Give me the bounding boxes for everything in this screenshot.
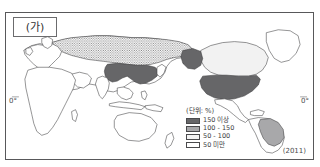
- legend-label-50-to-100: 50 - 100: [203, 133, 230, 140]
- legend-swatch-medium-gray: [186, 126, 200, 132]
- figure-frame: (가) 0° 0° (단위: %) 150 이상 100 - 150 50 - …: [5, 12, 314, 160]
- legend-item-50-to-100: 50 - 100: [186, 133, 234, 140]
- legend-swatch-light-gray: [186, 134, 200, 140]
- legend-label-100-to-150: 100 - 150: [203, 125, 234, 132]
- figure-stage: — — — —: [0, 0, 320, 167]
- legend-item-100-to-150: 100 - 150: [186, 125, 234, 132]
- map-legend: (단위: %) 150 이상 100 - 150 50 - 100 50 미만: [186, 108, 234, 150]
- region-greenland: [266, 30, 300, 63]
- panel-label-text: (가): [26, 22, 45, 33]
- cropped-header-text: — — — —: [0, 0, 320, 9]
- region-caribbean: [250, 110, 264, 116]
- legend-swatch-dark-gray: [186, 118, 200, 124]
- equator-label-right: 0°: [301, 98, 309, 105]
- cropped-header-glyphs: — — — —: [14, 0, 97, 4]
- region-united-states: [200, 75, 261, 100]
- legend-label-under-50: 50 미만: [203, 142, 225, 149]
- region-japan: [157, 64, 166, 77]
- region-madagascar: [72, 110, 78, 122]
- panel-label-box: (가): [13, 17, 57, 37]
- region-southeast-asia: [117, 87, 133, 100]
- source-year-note: (2011): [283, 148, 306, 155]
- legend-item-under-50: 50 미만: [186, 142, 234, 149]
- region-india: [95, 76, 109, 99]
- equator-label-left: 0°: [9, 98, 17, 105]
- legend-swatch-dotted: [186, 142, 200, 148]
- legend-title: (단위: %): [186, 108, 234, 115]
- region-new-zealand: [165, 132, 174, 148]
- region-philippines: [141, 91, 147, 100]
- legend-item-150-and-above: 150 이상: [186, 117, 234, 124]
- region-indonesia: [109, 102, 145, 110]
- region-canada: [201, 42, 269, 77]
- region-alaska: [181, 49, 203, 70]
- legend-label-150-and-above: 150 이상: [203, 117, 229, 124]
- region-new-guinea: [145, 105, 163, 112]
- region-africa: [25, 67, 76, 135]
- region-australia: [114, 113, 157, 142]
